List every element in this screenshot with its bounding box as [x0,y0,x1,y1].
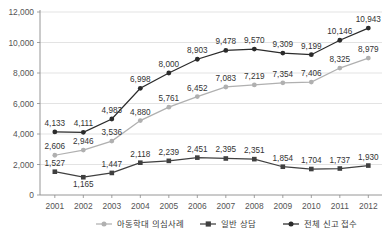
x-axis-tick-label: 2010 [302,201,321,211]
x-axis-tick-label: 2008 [245,201,264,211]
data-point-label: 4,880 [130,108,151,117]
data-point-marker [366,163,371,168]
y-axis-tick-label: 10,000 [8,38,34,48]
series-0: 2,6062,9463,5364,8805,7616,4527,0837,219… [45,45,379,158]
data-point-marker [138,160,143,165]
x-axis-tick-label: 2005 [159,201,178,211]
data-point-marker [109,139,114,144]
legend-item-0[interactable]: 아동학대 의심사례 [96,219,184,229]
data-point-marker [167,159,172,164]
data-point-marker [195,155,200,160]
data-point-label: 6,452 [187,84,208,93]
legend-label: 아동학대 의심사례 [117,219,184,229]
data-point-marker [109,117,114,122]
data-point-label: 4,983 [102,106,123,115]
data-point-marker [337,66,342,71]
legend-marker [289,222,294,227]
data-point-label: 1,447 [102,160,123,169]
line-chart: 02,0004,0006,0008,00010,00012,0002001200… [0,0,387,238]
data-point-label: 7,219 [244,72,265,81]
legend-marker [206,221,211,226]
data-point-marker [166,105,171,110]
gridlines-group: 02,0004,0006,0008,00010,00012,000 [8,7,382,200]
data-point-marker [309,167,314,172]
data-point-marker [309,52,314,57]
data-point-marker [195,57,200,62]
data-point-label: 1,930 [358,153,379,162]
y-axis-tick-label: 0 [29,190,34,200]
data-point-label: 5,761 [159,94,180,103]
data-point-label: 4,133 [45,119,66,128]
data-point-marker [280,51,285,56]
data-point-label: 6,998 [130,75,151,84]
data-point-marker [166,71,171,76]
data-point-marker [52,130,57,135]
legend: 아동학대 의심사례일반 상담전체 신고 접수 [96,219,357,229]
data-point-marker [195,94,200,99]
series-2: 4,1334,1114,9836,9988,0008,9039,4789,570… [45,15,382,135]
data-point-marker [53,169,58,174]
x-axis-tick-label: 2012 [359,201,378,211]
x-axis-tick-label: 2002 [74,201,93,211]
x-axis-tick-label: 2006 [188,201,207,211]
data-point-marker [81,130,86,135]
data-point-label: 1,165 [73,180,94,189]
y-axis-tick-label: 12,000 [8,7,34,17]
x-axis-tick-label: 2004 [131,201,150,211]
legend-item-1[interactable]: 일반 상담 [200,219,256,229]
data-point-marker [338,166,343,171]
data-point-label: 10,146 [327,27,352,36]
data-point-marker [81,148,86,153]
data-point-marker [252,47,257,52]
data-point-label: 2,451 [187,145,208,154]
x-axis-tick-label: 2001 [45,201,64,211]
data-point-label: 2,946 [73,137,94,146]
data-point-label: 7,083 [216,74,237,83]
data-point-marker [110,171,115,176]
data-point-label: 2,395 [216,145,237,154]
data-point-marker [138,86,143,91]
data-point-label: 2,118 [130,150,150,159]
data-point-label: 8,903 [187,46,208,55]
data-point-marker [280,80,285,85]
y-axis-tick-label: 8,000 [13,68,34,78]
data-point-marker [81,175,86,180]
data-point-label: 8,979 [358,45,379,54]
data-point-label: 7,354 [273,70,294,79]
data-point-label: 2,606 [45,142,66,151]
data-point-marker [52,153,57,158]
y-axis-tick-label: 2,000 [13,160,34,170]
x-axis-tick-label: 2009 [273,201,292,211]
legend-label: 전체 신고 접수 [304,219,357,229]
data-point-marker [252,83,257,88]
x-axis-tick-label: 2007 [216,201,235,211]
data-point-marker [138,118,143,123]
data-point-label: 8,000 [159,60,180,69]
legend-label: 일반 상담 [221,219,256,229]
data-point-label: 9,199 [301,42,322,51]
legend-item-2[interactable]: 전체 신고 접수 [283,219,357,229]
data-point-label: 10,943 [356,15,381,24]
data-point-label: 9,309 [273,40,294,49]
data-point-marker [281,164,286,169]
data-point-label: 3,536 [102,128,123,137]
data-point-label: 1,854 [273,154,294,163]
data-point-marker [223,48,228,53]
data-point-marker [224,156,229,161]
x-axis-group: 2001200220032004200520062007200820092010… [45,195,377,211]
data-point-label: 1,704 [301,156,322,165]
chart-container: 02,0004,0006,0008,00010,00012,0002001200… [0,0,387,238]
x-axis-tick-label: 2003 [102,201,121,211]
data-point-marker [223,85,228,90]
data-point-label: 7,406 [301,69,322,78]
data-point-label: 9,478 [216,37,237,46]
data-point-label: 4,111 [74,119,94,128]
data-point-marker [337,38,342,43]
data-point-label: 2,239 [159,148,180,157]
legend-marker [102,222,107,227]
data-point-marker [309,80,314,85]
data-point-label: 1,527 [45,159,66,168]
data-point-label: 2,351 [244,146,265,155]
data-point-label: 1,737 [330,156,351,165]
data-point-label: 8,325 [330,55,351,64]
